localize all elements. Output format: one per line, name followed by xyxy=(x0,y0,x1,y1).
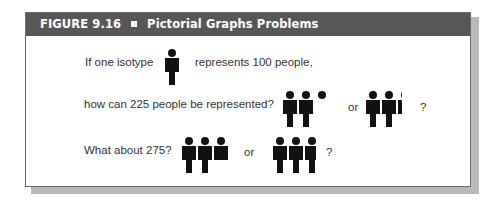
person-isotype-icon xyxy=(198,137,212,173)
person-isotype-icon xyxy=(366,91,380,127)
figure-label: FIGURE 9.16 xyxy=(40,17,121,31)
figure-title: Pictorial Graphs Problems xyxy=(147,17,318,31)
person-isotype-head-only-icon xyxy=(315,91,329,127)
person-isotype-icon xyxy=(382,91,396,127)
row-2-question-mark: ? xyxy=(420,101,426,113)
person-isotype-head-torso-icon xyxy=(214,137,228,173)
row-2-or: or xyxy=(348,101,358,113)
figure-box: FIGURE 9.16Pictorial Graphs Problems If … xyxy=(25,12,471,187)
person-isotype-icon xyxy=(283,91,297,127)
row-3-question: What about 275? xyxy=(84,144,172,156)
person-isotype-three-quarter-slice-icon xyxy=(305,137,316,173)
person-isotype-icon xyxy=(165,49,179,85)
row-3-or: or xyxy=(244,146,254,158)
row-2-question: how can 225 people be represented? xyxy=(84,98,274,110)
row-1-text-before: If one isotype xyxy=(85,56,153,68)
row-3-question-mark: ? xyxy=(326,146,332,158)
person-isotype-icon xyxy=(273,137,287,173)
person-isotype-icon xyxy=(182,137,196,173)
figure-header: FIGURE 9.16Pictorial Graphs Problems xyxy=(26,13,470,36)
person-isotype-icon xyxy=(289,137,303,173)
person-isotype-quarter-slice-icon xyxy=(398,91,402,127)
person-isotype-icon xyxy=(299,91,313,127)
square-bullet-icon xyxy=(131,21,137,27)
row-1-text-after: represents 100 people, xyxy=(195,56,313,68)
